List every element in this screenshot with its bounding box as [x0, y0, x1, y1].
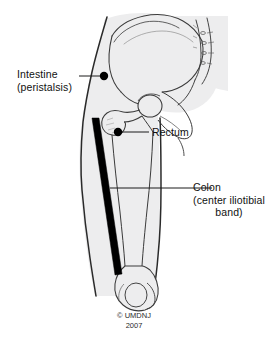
- anatomical-figure: Intestine (peristalsis) Rectum Colon (ce…: [0, 0, 267, 344]
- label-intestine: Intestine (peristalsis): [17, 68, 72, 93]
- anatomy-illustration: [0, 0, 267, 344]
- copyright-notice: © UMDNJ 2007: [84, 311, 184, 330]
- copyright-line1: © UMDNJ: [84, 311, 184, 321]
- marker-dot-rectum: [114, 128, 122, 136]
- label-rectum: Rectum: [152, 126, 189, 139]
- marker-dot-intestine: [100, 72, 108, 80]
- medial-condyle: [125, 283, 147, 307]
- label-intestine-line2: (peristalsis): [17, 81, 72, 94]
- label-colon-line3: band): [193, 206, 265, 219]
- label-colon: Colon (center iliotibial band): [193, 181, 265, 219]
- label-rectum-line1: Rectum: [152, 126, 189, 139]
- label-colon-line1: Colon: [193, 181, 265, 194]
- label-colon-line2: (center iliotibial: [193, 194, 265, 207]
- copyright-line2: 2007: [84, 321, 184, 331]
- femoral-head: [138, 95, 162, 117]
- label-intestine-line1: Intestine: [17, 68, 72, 81]
